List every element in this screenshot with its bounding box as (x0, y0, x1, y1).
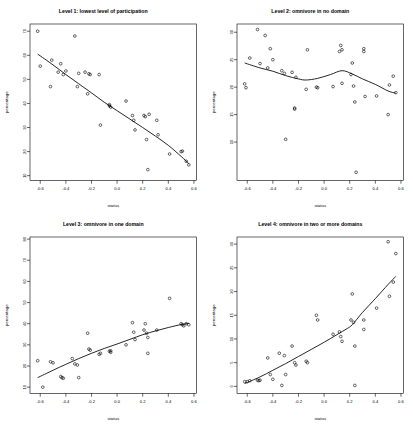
chart-title-4: Level 4: omnivore in two or more domains (258, 221, 362, 227)
data-layer (36, 30, 190, 171)
x-axis-label: status (107, 415, 120, 420)
data-point (391, 280, 394, 283)
data-point (339, 44, 342, 47)
y-tick-label: 15 (228, 112, 233, 117)
chart-panel-2: Level 2: omnivore in no domain-0.6-0.4-0… (207, 0, 413, 213)
scatter-plot-2: Level 2: omnivore in no domain-0.6-0.4-0… (207, 0, 413, 213)
y-tick-label: 40 (22, 100, 27, 105)
data-point (290, 344, 293, 347)
x-tick-label: 0.2 (346, 399, 352, 404)
y-axis-label: percentage (211, 91, 216, 114)
x-tick-label: 0.6 (398, 186, 404, 191)
data-point (39, 65, 42, 68)
data-point (131, 114, 134, 117)
y-tick-label: 15 (228, 312, 233, 317)
chart-title-1: Level 1: lowest level of participation (59, 8, 148, 14)
data-point (350, 292, 353, 295)
data-point (268, 373, 271, 376)
data-point (331, 332, 334, 335)
data-point (248, 57, 251, 60)
data-point (375, 306, 378, 309)
x-tick-label: 0.6 (191, 186, 197, 191)
x-tick-label: -0.6 (243, 186, 251, 191)
data-point (168, 296, 171, 299)
y-tick-label: 60 (22, 278, 27, 283)
data-point (77, 72, 80, 75)
data-layer (243, 28, 397, 173)
data-point (99, 124, 102, 127)
data-point (349, 318, 352, 321)
x-tick-label: 0.6 (191, 399, 197, 404)
trend-line (38, 323, 189, 377)
data-point (386, 113, 389, 116)
data-point (187, 164, 190, 167)
data-point (125, 100, 128, 103)
data-point (263, 34, 266, 37)
data-point (340, 339, 343, 342)
y-axis-label: percentage (4, 91, 9, 114)
data-point (155, 119, 158, 122)
data-point (350, 62, 353, 65)
figure-panel-grid: Level 1: lowest level of participation-0… (0, 0, 413, 425)
data-point (362, 47, 365, 50)
data-point (57, 71, 60, 74)
data-point (362, 328, 365, 331)
data-point (353, 101, 356, 104)
x-tick-label: 0.0 (114, 399, 120, 404)
data-point (131, 321, 134, 324)
x-tick-label: 0.6 (398, 399, 404, 404)
data-point (353, 344, 356, 347)
x-tick-label: -0.6 (37, 399, 45, 404)
y-tick-label: 10 (228, 335, 233, 340)
y-tick-label: 10 (22, 173, 27, 178)
data-point (243, 83, 246, 86)
data-point (277, 351, 280, 354)
data-point (271, 377, 274, 380)
x-tick-label: -0.6 (243, 399, 251, 404)
data-point (146, 336, 149, 339)
x-tick-label: 0.4 (372, 399, 378, 404)
x-tick-label: 0.0 (321, 399, 327, 404)
data-point (353, 384, 356, 387)
data-point (271, 58, 274, 61)
chart-panel-4: Level 4: omnivore in two or more domains… (207, 213, 413, 425)
trend-line (244, 276, 395, 383)
data-point (331, 85, 334, 88)
data-layer (36, 296, 190, 388)
data-point (71, 357, 74, 360)
scatter-plot-3: Level 3: omnivore in one domain-0.6-0.4-… (0, 213, 207, 425)
data-point (266, 67, 269, 70)
chart-panel-1: Level 1: lowest level of participation-0… (0, 0, 207, 213)
x-tick-label: -0.2 (88, 399, 96, 404)
x-axis-label: status (314, 415, 327, 420)
scatter-plot-1: Level 1: lowest level of participation-0… (0, 0, 207, 213)
trend-line (38, 54, 189, 164)
data-point (280, 384, 283, 387)
data-point (143, 328, 146, 331)
data-point (49, 85, 52, 88)
data-point (363, 95, 366, 98)
data-point (50, 59, 53, 62)
y-tick-label: 10 (228, 139, 233, 144)
x-tick-label: -0.4 (269, 399, 277, 404)
data-point (134, 338, 137, 341)
y-tick-label: 30 (22, 341, 27, 346)
data-point (362, 318, 365, 321)
data-point (36, 30, 39, 33)
x-tick-label: 0.4 (165, 399, 171, 404)
data-point (338, 50, 341, 53)
data-point (84, 71, 87, 74)
x-tick-label: 0.4 (165, 186, 171, 191)
data-point (386, 240, 389, 243)
data-point (132, 330, 135, 333)
data-point (290, 71, 293, 74)
x-axis-label: status (314, 203, 327, 208)
data-point (98, 73, 101, 76)
x-tick-label: 0.2 (346, 186, 352, 191)
data-point (362, 50, 365, 53)
y-tick-label: 20 (22, 149, 27, 154)
chart-title-3: Level 3: omnivore in one domain (63, 221, 144, 227)
data-point (340, 82, 343, 85)
y-tick-label: 40 (22, 320, 27, 325)
data-point (283, 72, 286, 75)
